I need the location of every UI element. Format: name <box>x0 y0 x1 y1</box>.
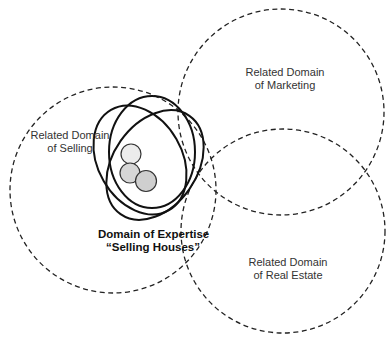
node-3 <box>136 171 157 192</box>
domain-circles <box>0 0 390 337</box>
expertise-label: Domain of Expertise “Selling Houses” <box>98 228 208 254</box>
expertise-ellipse-2 <box>75 89 206 231</box>
marketing-domain-circle <box>178 9 384 215</box>
diagram-canvas: Related Domain of Selling Related Domain… <box>0 0 390 337</box>
marketing-domain-label: Related Domain of Marketing <box>235 66 335 92</box>
selling-domain-label: Related Domain of Selling <box>22 129 118 155</box>
node-1 <box>121 144 141 164</box>
real-estate-domain-label: Related Domain of Real Estate <box>238 256 338 282</box>
